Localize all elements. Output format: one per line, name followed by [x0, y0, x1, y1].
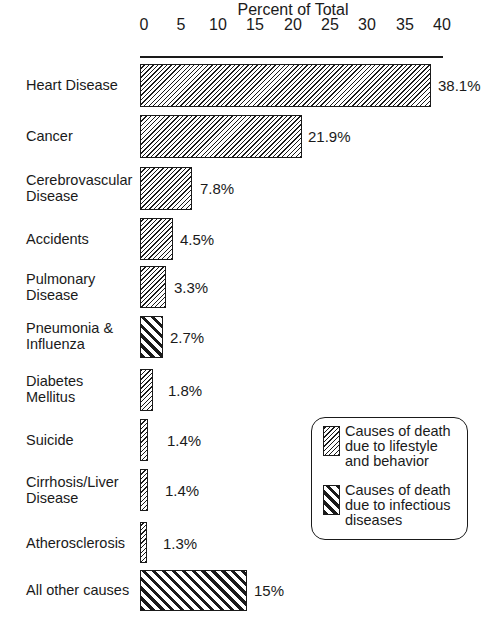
bar-atherosclerosis [140, 522, 147, 563]
bar-suicide [140, 419, 148, 461]
value-label-accidents: 4.5% [180, 218, 214, 260]
value-label-atherosclerosis: 1.3% [163, 522, 197, 564]
value-label-pulmonary-disease: 3.3% [174, 266, 208, 308]
bar-cancer [140, 115, 302, 158]
legend-swatch-lifestyle [323, 426, 340, 456]
value-label-suicide: 1.4% [167, 419, 201, 461]
x-tick-25: 25 [315, 16, 345, 34]
value-label-cirrhosis-liver-disease: 1.4% [165, 469, 199, 511]
bar-pneumonia-influenza [140, 316, 163, 358]
row-label-diabetes-mellitus: Diabetes Mellitus [26, 368, 141, 410]
bar-pulmonary-disease [140, 266, 166, 308]
value-label-pneumonia-influenza: 2.7% [170, 316, 204, 358]
bar-accidents [140, 218, 173, 260]
value-label-all-other-causes: 15% [254, 570, 284, 611]
x-tick-20: 20 [278, 16, 308, 34]
legend-swatch-infectious [323, 485, 340, 515]
row-label-pulmonary-disease: Pulmonary Disease [26, 266, 141, 308]
row-label-heart-disease: Heart Disease [26, 64, 141, 106]
legend-label-infectious: Causes of death due to infectious diseas… [345, 483, 465, 528]
value-label-diabetes-mellitus: 1.8% [168, 369, 202, 411]
x-tick-15: 15 [240, 16, 270, 34]
legend-label-lifestyle: Causes of death due to lifestyle and beh… [345, 424, 465, 469]
row-label-cancer: Cancer [26, 115, 141, 157]
bar-cerebrovascular-disease [140, 167, 192, 210]
legend: Causes of death due to lifestyle and beh… [311, 417, 468, 540]
x-tick-10: 10 [203, 16, 233, 34]
row-label-all-other-causes: All other causes [26, 570, 151, 610]
x-tick-0: 0 [129, 16, 159, 34]
x-tick-30: 30 [352, 16, 382, 34]
bar-all-other-causes [140, 570, 247, 611]
bar-heart-disease [140, 64, 431, 107]
row-label-atherosclerosis: Atherosclerosis [26, 522, 141, 564]
row-label-pneumonia-influenza: Pneumonia & Influenza [26, 315, 141, 357]
x-tick-5: 5 [166, 16, 196, 34]
x-tick-40: 40 [427, 16, 457, 34]
bar-cirrhosis-liver-disease [140, 469, 148, 511]
x-axis-line [140, 56, 443, 58]
row-label-suicide: Suicide [26, 419, 141, 461]
row-label-cerebrovascular-disease: Cerebrovascular Disease [26, 166, 141, 209]
value-label-heart-disease: 38.1% [438, 64, 481, 107]
row-label-accidents: Accidents [26, 218, 141, 260]
value-label-cancer: 21.9% [308, 115, 351, 158]
row-label-cirrhosis-liver-disease: Cirrhosis/Liver Disease [26, 469, 141, 511]
x-tick-35: 35 [390, 16, 420, 34]
value-label-cerebrovascular-disease: 7.8% [200, 167, 234, 210]
bar-diabetes-mellitus [140, 369, 153, 411]
